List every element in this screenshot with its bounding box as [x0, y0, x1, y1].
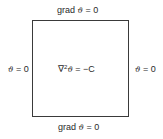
- left-boundary-condition: ϑ = 0: [8, 64, 29, 75]
- bottom-prefix: grad: [58, 122, 79, 132]
- top-boundary-condition: grad ϑ = 0: [57, 5, 98, 16]
- right-boundary-condition: ϑ = 0: [135, 64, 156, 75]
- bottom-suffix: = 0: [84, 122, 99, 132]
- bottom-boundary-condition: grad ϑ = 0: [58, 122, 99, 133]
- interior-equation: ∇2ϑ = −C: [58, 64, 95, 75]
- left-suffix: = 0: [13, 64, 28, 74]
- interior-suffix: = −C: [73, 64, 95, 74]
- top-prefix: grad: [57, 5, 78, 15]
- right-suffix: = 0: [140, 64, 155, 74]
- top-suffix: = 0: [83, 5, 98, 15]
